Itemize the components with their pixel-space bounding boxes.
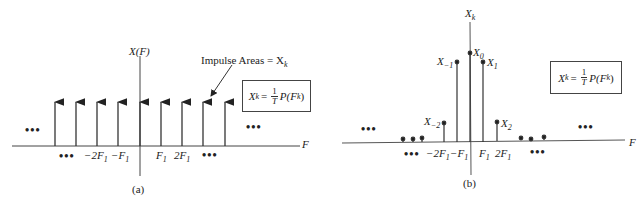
panel-a-impulses <box>55 102 225 146</box>
panel-a-left-ellipsis: ••• <box>25 124 41 136</box>
panel-b-formula-box: Xk = 1T P(Fk) <box>550 61 622 94</box>
b-tick-minus-2f1: −2F1 <box>426 148 450 162</box>
panel-b-caption: (b) <box>463 178 476 189</box>
panel-b-tick-ellipsis-right: ••• <box>530 146 546 158</box>
panel-a-right-ellipsis: ••• <box>246 121 262 133</box>
label-x0: X0 <box>473 47 484 61</box>
panel-b-stems <box>401 51 546 142</box>
impulse-areas-annotation: Impulse Areas = Xk <box>201 55 287 69</box>
tick-f1: F1 <box>156 150 167 164</box>
panel-b-axis-label: Xk <box>465 8 475 22</box>
annotation-arrow <box>211 65 232 96</box>
tick-2f1: 2F1 <box>174 150 190 164</box>
panel-a-tick-ellipsis-right: ••• <box>202 149 218 161</box>
panel-b-left-ellipsis: ••• <box>361 123 377 135</box>
b-tick-f1: F1 <box>479 148 490 162</box>
label-x-minus-2: X−2 <box>424 116 440 130</box>
tick-minus-f1: −F1 <box>111 150 129 164</box>
b-tick-minus-f1: −F1 <box>450 148 468 162</box>
panel-a-caption: (a) <box>132 184 144 195</box>
label-x1: X1 <box>487 57 498 71</box>
panel-a-formula-box: Xk = 1T P(Fk) <box>242 80 311 112</box>
panel-a-x-axis-label: F <box>302 139 309 150</box>
tick-minus-2f1: −2F1 <box>84 150 108 164</box>
panel-b-tick-ellipsis-left: ••• <box>404 148 420 160</box>
diagram-canvas <box>0 0 642 202</box>
panel-a-axis-label: X(F) <box>129 46 150 57</box>
label-x-minus-1: X−1 <box>437 56 453 70</box>
panel-b-x-axis-label: F <box>629 137 636 148</box>
b-tick-2f1: 2F1 <box>495 148 511 162</box>
label-x2: X2 <box>501 118 512 132</box>
panel-b-right-ellipsis: ••• <box>578 121 594 133</box>
panel-a-tick-ellipsis-left: ••• <box>59 150 75 162</box>
